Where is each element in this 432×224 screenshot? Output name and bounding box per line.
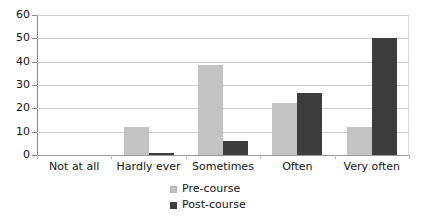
bar-group [335,15,409,155]
legend: Pre-course Post-course [0,183,432,211]
x-axis-label: Sometimes [186,160,260,173]
x-axis-label: Hardly ever [111,160,185,173]
bar-chart: 0102030405060 Not at allHardly everSomet… [0,0,432,224]
x-tick-mark [186,155,187,159]
y-axis-tick-label: 30 [0,79,30,90]
x-tick-mark [335,155,336,159]
gridline [37,155,409,156]
bar-group [260,15,334,155]
x-tick-mark [111,155,112,159]
bar-pre-course [347,127,372,155]
y-axis-tick-label: 50 [0,32,30,43]
bar-pre-course [272,103,297,156]
y-axis-tick-label: 20 [0,102,30,113]
legend-item-post-course: Post-course [170,199,262,211]
legend-swatch-icon-pre-course [170,186,177,193]
bar-group [111,15,185,155]
legend-item-pre-course: Pre-course [170,183,262,195]
bar-post-course [297,93,322,155]
x-axis-label: Very often [335,160,409,173]
bar-post-course [372,38,397,155]
bar-post-course [149,153,174,155]
bar-group [186,15,260,155]
y-axis-tick-label: 0 [0,149,30,160]
y-axis-tick-label: 60 [0,9,30,20]
x-tick-mark [260,155,261,159]
bar-pre-course [124,127,149,155]
bar-post-course [223,141,248,155]
bar-group [37,15,111,155]
y-axis-tick-label: 10 [0,126,30,137]
legend-label-post-course: Post-course [182,199,246,211]
x-tick-mark [37,155,38,159]
bar-pre-course [198,65,223,155]
legend-label-pre-course: Pre-course [182,183,240,195]
x-tick-mark [409,155,410,159]
y-axis-tick-label: 40 [0,56,30,67]
x-axis-label: Not at all [37,160,111,173]
legend-swatch-icon-post-course [170,202,177,209]
x-axis-label: Often [260,160,334,173]
